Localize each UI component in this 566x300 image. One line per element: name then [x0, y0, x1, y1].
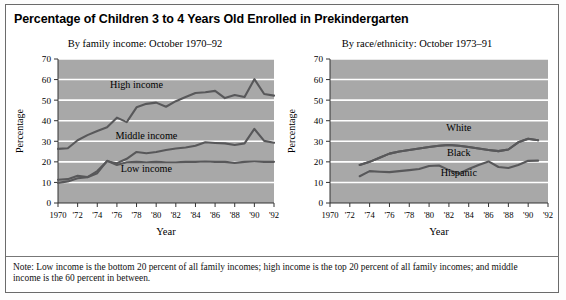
note-divider	[6, 256, 559, 257]
svg-text:70: 70	[42, 55, 52, 64]
svg-text:'74: '74	[92, 210, 103, 220]
chart-page: Percentage of Children 3 to 4 Years Old …	[0, 0, 566, 300]
left-panel-subtitle: By family income: October 1970–92	[20, 38, 270, 49]
svg-text:Percentage: Percentage	[286, 109, 297, 153]
svg-text:'80: '80	[151, 210, 161, 220]
svg-text:10: 10	[42, 178, 52, 188]
svg-text:'78: '78	[131, 210, 141, 220]
svg-text:'82: '82	[171, 210, 181, 220]
right-panel-subtitle: By race/ethnicity: October 1973–91	[292, 38, 542, 49]
svg-text:White: White	[446, 122, 471, 133]
svg-text:'76: '76	[384, 210, 395, 220]
svg-text:'72: '72	[73, 210, 83, 220]
svg-text:60: 60	[314, 75, 324, 85]
svg-text:'78: '78	[404, 210, 414, 220]
svg-text:40: 40	[42, 116, 52, 126]
svg-text:'90: '90	[523, 210, 533, 220]
svg-text:Hispanic: Hispanic	[441, 167, 478, 178]
page-title: Percentage of Children 3 to 4 Years Old …	[14, 12, 409, 26]
svg-text:'92: '92	[543, 210, 553, 220]
svg-text:'80: '80	[424, 210, 434, 220]
svg-text:60: 60	[42, 75, 52, 85]
svg-text:50: 50	[42, 96, 52, 106]
svg-text:'88: '88	[503, 210, 513, 220]
svg-text:40: 40	[314, 116, 324, 126]
svg-text:70: 70	[314, 55, 324, 64]
svg-text:'82: '82	[444, 210, 454, 220]
svg-text:Black: Black	[447, 147, 472, 158]
svg-text:Year: Year	[429, 226, 449, 237]
svg-text:'90: '90	[249, 210, 259, 220]
left-chart-family-income: 0102030405060701970'72'74'76'78'80'82'84…	[10, 55, 280, 250]
svg-text:20: 20	[314, 157, 324, 167]
svg-text:30: 30	[42, 137, 52, 147]
svg-text:0: 0	[46, 198, 51, 208]
svg-text:1970: 1970	[49, 210, 66, 220]
svg-text:'72: '72	[345, 210, 355, 220]
svg-text:Percentage: Percentage	[14, 109, 25, 153]
svg-text:'92: '92	[269, 210, 279, 220]
svg-text:30: 30	[314, 137, 324, 147]
svg-text:Middle income: Middle income	[115, 130, 177, 141]
svg-text:High income: High income	[110, 79, 163, 90]
chart-note: Note: Low income is the bottom 20 percen…	[13, 262, 545, 284]
left-chart-svg: 0102030405060701970'72'74'76'78'80'82'84…	[10, 55, 280, 250]
svg-text:Year: Year	[156, 226, 176, 237]
svg-text:'84: '84	[190, 210, 201, 220]
svg-text:Low income: Low income	[121, 163, 173, 174]
svg-text:'86: '86	[210, 210, 221, 220]
svg-text:'84: '84	[464, 210, 475, 220]
svg-text:0: 0	[318, 198, 323, 208]
svg-text:20: 20	[42, 157, 52, 167]
svg-text:50: 50	[314, 96, 324, 106]
svg-text:'76: '76	[112, 210, 123, 220]
svg-text:'88: '88	[230, 210, 240, 220]
right-chart-svg: 0102030405060701970'72'74'76'78'80'82'84…	[282, 55, 554, 250]
svg-text:'86: '86	[483, 210, 494, 220]
svg-text:10: 10	[314, 178, 324, 188]
svg-text:'74: '74	[365, 210, 376, 220]
right-chart-race-ethnicity: 0102030405060701970'72'74'76'78'80'82'84…	[282, 55, 554, 250]
svg-text:1970: 1970	[321, 210, 338, 220]
